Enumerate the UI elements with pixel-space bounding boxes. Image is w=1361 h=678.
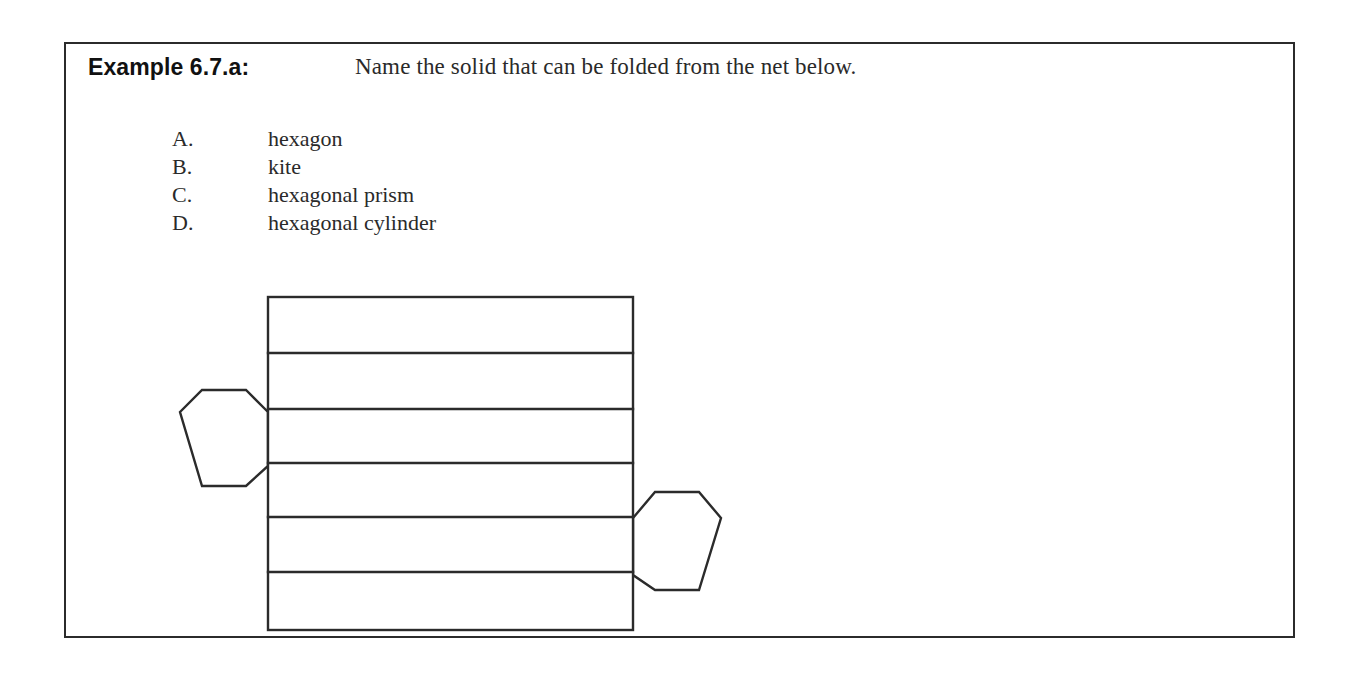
- example-label: Example 6.7.a:: [88, 54, 249, 81]
- choice-letter: A.: [172, 126, 268, 152]
- choice-list: A. hexagon B. kite C. hexagonal prism D.…: [172, 126, 692, 238]
- question-header: Example 6.7.a:: [88, 54, 249, 86]
- choice-text: kite: [268, 154, 301, 180]
- right-hexagon-face: [633, 492, 721, 590]
- left-hexagon-face: [180, 390, 268, 486]
- choice-option-c[interactable]: C. hexagonal prism: [172, 182, 692, 210]
- choice-letter: D.: [172, 210, 268, 236]
- choice-text: hexagonal prism: [268, 182, 414, 208]
- choice-option-d[interactable]: D. hexagonal cylinder: [172, 210, 692, 238]
- question-prompt: Name the solid that can be folded from t…: [355, 54, 856, 80]
- choice-text: hexagonal cylinder: [268, 210, 436, 236]
- choice-letter: B.: [172, 154, 268, 180]
- net-diagram: [170, 282, 740, 642]
- choice-option-b[interactable]: B. kite: [172, 154, 692, 182]
- choice-text: hexagon: [268, 126, 343, 152]
- choice-option-a[interactable]: A. hexagon: [172, 126, 692, 154]
- net-diagram-svg: [170, 282, 740, 642]
- choice-letter: C.: [172, 182, 268, 208]
- net-shape-group: [180, 297, 721, 630]
